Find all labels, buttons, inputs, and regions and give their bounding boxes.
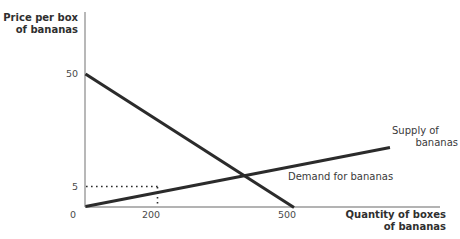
x-tick-label-0: 0	[70, 209, 86, 221]
x-axis-title: Quantity of boxes of bananas	[316, 209, 446, 233]
demand-curve-label: Demand for bananas	[288, 171, 408, 183]
y-tick-label-5: 5	[44, 181, 78, 193]
y-axis-title: Price per box of bananas	[0, 12, 78, 36]
supply-curve-label-line-2: bananas	[392, 137, 458, 149]
y-axis-title-line-1: Price per box	[0, 12, 78, 24]
supply-curve-label: Supply of bananas	[392, 125, 458, 149]
x-tick-label-500: 500	[278, 209, 310, 221]
x-tick-label-200: 200	[142, 209, 174, 221]
x-axis-title-line-1: Quantity of boxes	[316, 209, 446, 221]
supply-demand-figure: Price per box of bananas Quantity of box…	[0, 0, 460, 239]
y-axis-title-line-2: of bananas	[0, 24, 78, 36]
y-tick-label-50: 50	[44, 68, 78, 80]
supply-curve-label-line-1: Supply of	[392, 125, 458, 137]
x-axis-title-line-2: of bananas	[316, 221, 446, 233]
